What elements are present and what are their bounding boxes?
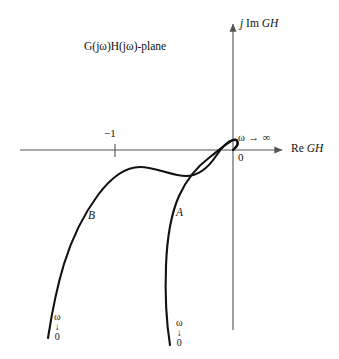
critical-point-label: −1 bbox=[104, 128, 116, 140]
imaginary-axis-label: j Im GH bbox=[240, 17, 278, 29]
curve-b-label: B bbox=[88, 209, 95, 221]
omega-to-zero-label-b: ω ↓ 0 bbox=[54, 312, 61, 342]
real-axis-re: Re bbox=[291, 142, 307, 154]
nyquist-curve-b bbox=[48, 140, 238, 338]
omega-value-b: 0 bbox=[54, 332, 61, 342]
real-axis-label: Re GH bbox=[291, 142, 323, 154]
omega-infinity-label: ω → ∞ bbox=[238, 132, 271, 143]
omega-value-a: 0 bbox=[176, 338, 183, 348]
real-axis-gh: GH bbox=[307, 142, 324, 154]
imaginary-axis-im: Im bbox=[243, 17, 262, 29]
origin-label: 0 bbox=[238, 152, 244, 164]
curve-a-label: A bbox=[176, 206, 183, 218]
omega-to-zero-label-a: ω ↓ 0 bbox=[176, 318, 183, 348]
nyquist-plot-figure: G(jω)H(jω)-plane j Im GH Re GH −1 0 ω → … bbox=[0, 0, 339, 359]
plane-label: G(jω)H(jω)-plane bbox=[84, 40, 166, 52]
imaginary-axis-gh: GH bbox=[262, 17, 279, 29]
nyquist-diagram-canvas bbox=[0, 0, 339, 359]
